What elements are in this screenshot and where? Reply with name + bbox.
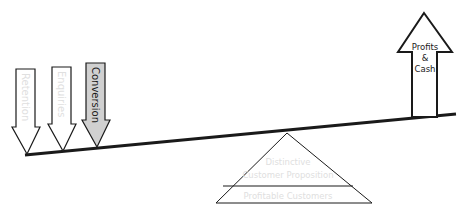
ampersand-label: & bbox=[422, 53, 429, 63]
enquiries-label: Enquiries bbox=[56, 71, 67, 117]
cash-label: Cash bbox=[415, 64, 436, 74]
retention-label: Retention bbox=[20, 73, 31, 121]
profitable-customers-label: Profitable Customers bbox=[244, 191, 333, 201]
profits-cash-arrow: Profits & Cash bbox=[398, 13, 452, 117]
customer-proposition-label: Customer Proposition bbox=[242, 170, 333, 180]
enquiries-arrow: Enquiries bbox=[48, 67, 76, 151]
conversion-label: Conversion bbox=[90, 67, 101, 123]
distinctive-label: Distinctive bbox=[265, 157, 310, 167]
retention-arrow: Retention bbox=[12, 69, 40, 154]
fulcrum-triangle: Distinctive Customer Proposition Profita… bbox=[216, 133, 372, 203]
seesaw-diagram: Retention Enquiries Conversion Profits &… bbox=[0, 0, 469, 221]
conversion-arrow: Conversion bbox=[82, 63, 110, 147]
profits-label: Profits bbox=[412, 42, 439, 52]
